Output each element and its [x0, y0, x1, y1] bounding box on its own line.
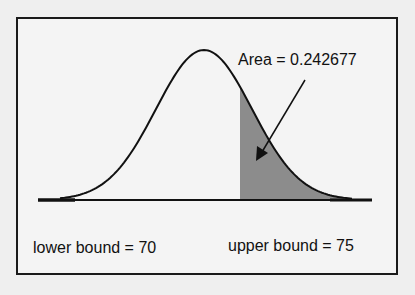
area-value-label: Area = 0.242677 — [238, 52, 357, 68]
lower-bound-label: lower bound = 70 — [33, 240, 156, 256]
arrow-pointer — [256, 80, 305, 161]
shaded-area-region — [240, 87, 345, 200]
upper-bound-label: upper bound = 75 — [228, 238, 354, 254]
bell-curve — [60, 50, 352, 199]
